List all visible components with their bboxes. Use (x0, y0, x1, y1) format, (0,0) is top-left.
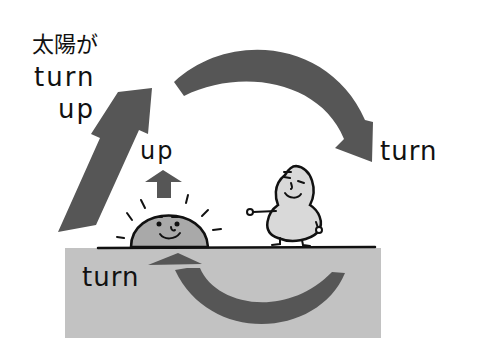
peanut-character (247, 166, 322, 246)
small-up-arrow (145, 170, 182, 198)
right-turn-label: turn (380, 138, 437, 164)
sun-title-turn: turn (34, 64, 95, 90)
sun (117, 195, 221, 247)
small-up-label: up (140, 139, 174, 163)
sun-title-up: up (58, 96, 95, 122)
ground-turn-label: turn (82, 264, 139, 290)
sun-title-japanese: 太陽が (32, 34, 98, 56)
top-curved-arrow (174, 50, 373, 162)
